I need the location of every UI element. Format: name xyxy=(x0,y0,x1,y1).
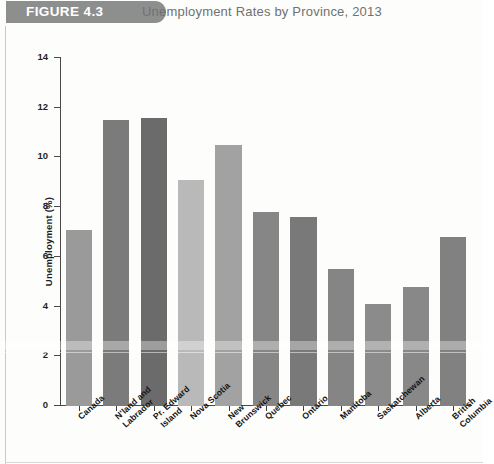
y-axis-tick-label: 10 xyxy=(18,150,48,161)
bar xyxy=(103,120,129,406)
bar xyxy=(328,269,354,406)
bar xyxy=(440,237,466,406)
y-axis-tick-label: 0 xyxy=(18,399,48,410)
bar xyxy=(66,230,92,406)
y-axis-tick-label: 4 xyxy=(18,300,48,311)
figure-title: Unemployment Rates by Province, 2013 xyxy=(142,4,382,19)
y-axis-tick-label: 12 xyxy=(18,101,48,112)
bar-chart: Unemployment (%) 02468101214 CanadaN'lan… xyxy=(0,26,483,464)
y-axis-tick-label: 6 xyxy=(18,250,48,261)
y-axis-tick-label: 8 xyxy=(18,200,48,211)
bar xyxy=(253,212,279,406)
figure-number-label: FIGURE 4.3 xyxy=(26,4,104,19)
bar-series xyxy=(60,57,472,406)
y-axis-tick-label: 2 xyxy=(18,349,48,360)
y-axis-tick-label: 14 xyxy=(18,51,48,62)
bar xyxy=(215,145,241,406)
bar xyxy=(178,180,204,406)
figure-header: FIGURE 4.3 Unemployment Rates by Provinc… xyxy=(0,0,483,26)
bar xyxy=(141,118,167,406)
y-axis-title-wrapper: Unemployment (%) xyxy=(28,86,46,366)
bar xyxy=(290,217,316,406)
y-axis-title: Unemployment (%) xyxy=(43,102,54,382)
